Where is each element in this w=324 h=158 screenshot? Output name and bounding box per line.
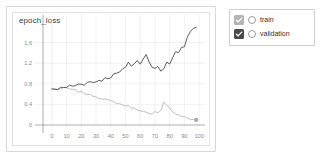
svg-text:10: 10 — [63, 133, 69, 139]
x-tick-labels: 0102030405060708090100 — [50, 133, 204, 139]
svg-text:0.8: 0.8 — [24, 81, 32, 87]
svg-text:100: 100 — [194, 133, 203, 139]
y-tick-labels: 00.40.81.21.6 — [24, 40, 32, 128]
svg-text:60: 60 — [137, 133, 143, 139]
svg-text:0: 0 — [29, 122, 32, 128]
chart-panel[interactable]: epoch_loss 0102030405060708090100 00.40.… — [12, 12, 210, 146]
svg-text:1.6: 1.6 — [24, 40, 32, 46]
series-end-markers — [194, 118, 198, 122]
svg-text:30: 30 — [93, 133, 99, 139]
svg-text:70: 70 — [152, 133, 158, 139]
svg-text:0.4: 0.4 — [24, 101, 32, 107]
legend-item-validation[interactable]: validation — [234, 27, 310, 41]
chart-card[interactable]: epoch_loss 0102030405060708090100 00.40.… — [6, 6, 216, 152]
svg-text:40: 40 — [108, 133, 114, 139]
svg-text:1.2: 1.2 — [24, 60, 32, 66]
checkbox-checked-icon[interactable] — [234, 29, 244, 39]
svg-text:80: 80 — [167, 133, 173, 139]
series-marker-circle-icon — [248, 16, 256, 24]
legend-item-train[interactable]: train — [234, 13, 310, 27]
svg-text:50: 50 — [122, 133, 128, 139]
plot-area[interactable]: 0102030405060708090100 00.40.81.21.6 — [13, 13, 211, 147]
epoch-loss-chart-widget: epoch_loss 0102030405060708090100 00.40.… — [0, 0, 324, 158]
svg-text:20: 20 — [78, 133, 84, 139]
legend-item-label: train — [260, 15, 274, 25]
svg-text:90: 90 — [181, 133, 187, 139]
series-lines — [52, 27, 196, 119]
checkbox-checked-icon[interactable] — [234, 15, 244, 25]
legend-box[interactable]: train validation — [229, 9, 315, 46]
legend-item-label: validation — [260, 29, 290, 39]
series-marker-circle-icon — [248, 30, 256, 38]
svg-text:0: 0 — [50, 133, 53, 139]
